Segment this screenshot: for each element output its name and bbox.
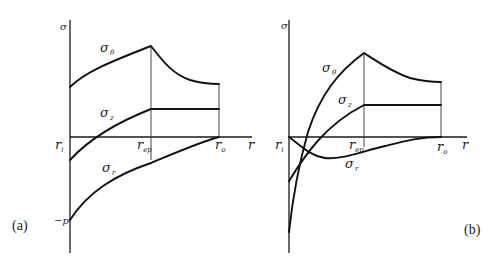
sigma-theta-label: σθ — [100, 40, 115, 57]
sigma-z-curve — [289, 105, 441, 181]
sigma-theta-curve — [289, 53, 441, 232]
sigma-theta-curve — [70, 46, 219, 87]
r-axis-label: r — [248, 137, 255, 152]
sigma-z-label: σz — [100, 105, 114, 122]
rep-tick-label: rep — [349, 137, 364, 154]
ri-tick-label: ri — [275, 137, 283, 154]
stress-distribution-diagram: σ σθ σz σr ri rep ro r −p (a) σ σθ σz σr… — [0, 0, 496, 263]
sigma-r-label: σr — [102, 160, 116, 177]
panel-a: σ σθ σz σr ri rep ro r −p (a) — [12, 20, 255, 253]
panel-a-label: (a) — [12, 218, 28, 234]
sigma-r-label: σr — [345, 156, 359, 173]
sigma-axis-label: σ — [281, 20, 289, 31]
sigma-z-label: σz — [338, 92, 352, 109]
r-axis-label: r — [462, 137, 469, 152]
rep-tick-label: rep — [137, 137, 152, 154]
panel-b-label: (b) — [464, 222, 481, 238]
sigma-theta-label: σθ — [322, 60, 337, 77]
ro-tick-label: ro — [437, 139, 447, 156]
sigma-axis-label: σ — [60, 21, 68, 32]
panel-b: σ σθ σz σr ri rep ro r (b) — [275, 20, 481, 253]
ro-tick-label: ro — [215, 137, 225, 154]
minus-p-label: −p — [54, 215, 69, 226]
ri-tick-label: ri — [55, 137, 63, 154]
